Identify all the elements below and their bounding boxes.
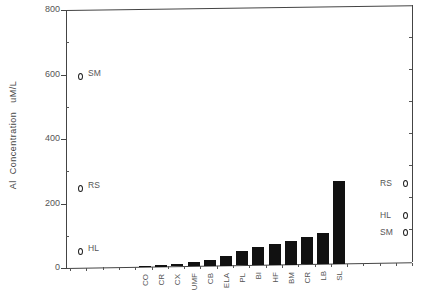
x-tick-label: ELA [222, 273, 231, 293]
right-axis-tick [409, 165, 412, 166]
diamond-marker-icon [403, 229, 408, 236]
x-tick [119, 267, 120, 270]
bar-cr [155, 265, 167, 267]
x-tick [86, 268, 87, 271]
y-tick-label: 600 [30, 69, 60, 79]
x-tick-label: BI [254, 272, 263, 292]
y-tick-label: 0 [30, 262, 60, 272]
y-minor-tick [66, 236, 69, 237]
x-tick [249, 265, 250, 268]
x-tick-label: BM [287, 272, 296, 292]
y-minor-tick [66, 42, 69, 43]
y-tick [61, 75, 66, 76]
bar-hf [269, 244, 281, 265]
bar-cb [204, 260, 216, 266]
right-axis-tick [409, 197, 412, 198]
right-axis-tick [409, 69, 412, 70]
y-tick-label: 800 [30, 4, 60, 14]
x-tick [331, 264, 332, 267]
bar-bi [252, 247, 264, 265]
x-tick-label: UMF [190, 273, 199, 293]
x-tick-label: CO [141, 274, 150, 294]
y-minor-tick [66, 171, 69, 172]
x-tick [70, 268, 71, 271]
right-axis-tick [409, 101, 412, 102]
y-tick [61, 268, 66, 269]
x-tick-label: PL [238, 273, 247, 293]
x-tick [200, 266, 201, 269]
x-tick [233, 265, 234, 268]
x-tick [347, 264, 348, 267]
diamond-marker-icon [403, 212, 408, 219]
bar-lb [317, 233, 329, 264]
x-tick-label: LB [319, 271, 328, 291]
y-tick-label: 200 [30, 198, 60, 208]
y-tick [61, 204, 66, 205]
diamond-marker-icon [78, 73, 83, 80]
x-tick-label: SL [335, 271, 344, 291]
x-tick [298, 264, 299, 267]
x-tick [135, 267, 136, 270]
bar-pl [236, 251, 248, 266]
x-tick [152, 267, 153, 270]
x-tick [184, 266, 185, 269]
x-tick-label: CR [303, 272, 312, 292]
right-axis-tick [409, 37, 412, 38]
bar-cx [171, 264, 183, 266]
marker-label: HL [380, 210, 391, 220]
bar-cr [301, 237, 313, 264]
y-tick [61, 10, 66, 11]
x-tick [217, 266, 218, 269]
marker-label: SM [88, 68, 101, 78]
diamond-marker-icon [78, 248, 83, 255]
bar-ela [220, 256, 232, 266]
marker-label: RS [380, 178, 392, 188]
y-tick [61, 139, 66, 140]
x-tick [412, 263, 413, 266]
y-axis-left [66, 10, 67, 268]
y-minor-tick [66, 107, 69, 108]
right-axis-tick [409, 229, 412, 230]
x-tick [396, 263, 397, 266]
bar-co [139, 266, 151, 267]
x-tick-label: CR [157, 274, 166, 294]
y-axis-right [412, 5, 413, 262]
y-tick-label: 400 [30, 133, 60, 143]
bar-bm [285, 241, 297, 265]
x-tick [266, 265, 267, 268]
x-tick [315, 264, 316, 267]
x-tick [103, 267, 104, 270]
x-tick [380, 263, 381, 266]
x-tick-label: CX [173, 274, 182, 294]
marker-label: SM [380, 227, 393, 237]
right-axis-tick [409, 133, 412, 134]
marker-label: HL [88, 243, 99, 253]
bar-sl [333, 181, 345, 264]
bar-umf [188, 262, 200, 266]
y-axis-label: Al Concentration uM/L [8, 60, 18, 210]
x-tick-label: CB [206, 273, 215, 293]
x-tick [282, 265, 283, 268]
x-tick-label: HF [271, 272, 280, 292]
x-tick [363, 263, 364, 266]
marker-label: RS [88, 180, 100, 190]
x-tick [168, 266, 169, 269]
plot-top-border [66, 5, 412, 11]
diamond-marker-icon [78, 185, 83, 192]
diamond-marker-icon [403, 180, 408, 187]
